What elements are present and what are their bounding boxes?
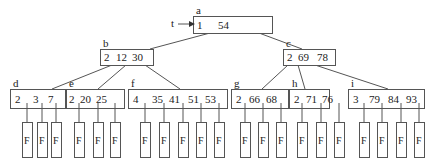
node-c: c26978 (284, 37, 336, 66)
node-key: 3 (33, 93, 39, 105)
tree-edge (298, 65, 305, 89)
node-key: 2 (15, 93, 21, 105)
node-key: 1 (197, 19, 203, 31)
leaf-records-h: FFF (298, 103, 345, 158)
node-f: f435415153 (129, 77, 228, 109)
leaf-records-g: FFF (241, 103, 287, 158)
node-key: 69 (298, 51, 310, 63)
node-key: 35 (152, 93, 164, 105)
leaf-records-i: FFFF (360, 103, 425, 158)
record-label: F (112, 135, 118, 146)
record-label: F (142, 135, 148, 146)
b-plus-tree-diagram: a154b21230c26978d237e22025f435415153g266… (0, 0, 431, 165)
node-key: 2 (69, 93, 75, 105)
tree-canvas: a154b21230c26978d237e22025f435415153g266… (0, 0, 431, 165)
node-key: 30 (132, 51, 144, 63)
record-label: F (216, 135, 222, 146)
node-key: 2 (104, 51, 110, 63)
node-key: 54 (218, 19, 230, 31)
leaf-records-f: FFFFF (141, 103, 225, 158)
leaf-records-e: FFF (75, 103, 121, 158)
node-key: 25 (96, 93, 108, 105)
node-key: 2 (287, 51, 293, 63)
node-h: h27176 (290, 77, 334, 109)
node-label: g (234, 77, 240, 89)
tree-edge (145, 65, 180, 89)
record-label: F (260, 135, 266, 146)
node-key: 84 (388, 93, 400, 105)
node-key: 51 (188, 93, 199, 105)
record-label: F (336, 135, 342, 146)
node-i: i3798493 (349, 77, 425, 109)
node-key: 3 (353, 93, 359, 105)
record-label: F (161, 135, 167, 146)
node-key: 71 (306, 93, 317, 105)
record-label: F (278, 135, 284, 146)
record-label: F (398, 135, 404, 146)
record-label: F (299, 135, 305, 146)
record-label: F (416, 135, 422, 146)
node-b: b21230 (101, 37, 154, 66)
record-label: F (53, 135, 59, 146)
node-g: g26668 (232, 77, 289, 109)
node-key: 78 (317, 51, 329, 63)
node-label: c (286, 37, 291, 49)
node-key: 7 (48, 93, 54, 105)
record-label: F (95, 135, 101, 146)
leaf-records-d: FFF (23, 103, 62, 158)
node-label: i (351, 77, 354, 89)
node-d: d237 (11, 77, 66, 109)
node-label: f (131, 77, 135, 89)
record-label: F (24, 135, 30, 146)
root-pointer-label: t (171, 17, 174, 29)
node-box (194, 17, 273, 34)
node-label: d (13, 77, 19, 89)
node-key: 12 (116, 51, 127, 63)
root-pointer: t (171, 17, 195, 29)
record-label: F (76, 135, 82, 146)
node-key: 68 (266, 93, 278, 105)
node-key: 2 (294, 93, 300, 105)
record-label: F (379, 135, 385, 146)
record-label: F (39, 135, 45, 146)
node-label: h (292, 77, 298, 89)
node-key: 79 (369, 93, 381, 105)
record-label: F (242, 135, 248, 146)
record-label: F (361, 135, 367, 146)
tree-edge (259, 33, 302, 49)
record-label: F (318, 135, 324, 146)
node-key: 2 (236, 93, 242, 105)
node-key: 20 (80, 93, 92, 105)
leaf-records: FFFFFFFFFFFFFFFFFFFFF (23, 103, 425, 158)
tree-nodes: a154b21230c26978d237e22025f435415153g266… (11, 4, 425, 109)
node-key: 76 (322, 93, 334, 105)
node-e: e22025 (67, 77, 125, 109)
tree-edge (52, 65, 112, 89)
tree-edge (150, 33, 210, 49)
node-key: 66 (249, 93, 261, 105)
node-a: a154 (194, 4, 273, 34)
node-key: 4 (133, 93, 139, 105)
record-label: F (198, 135, 204, 146)
node-label: a (196, 4, 201, 16)
node-label: b (103, 37, 109, 49)
node-key: 93 (406, 93, 418, 105)
node-key: 53 (205, 93, 217, 105)
node-key: 41 (169, 93, 180, 105)
node-label: e (69, 77, 74, 89)
tree-edge (262, 65, 288, 89)
record-label: F (180, 135, 186, 146)
